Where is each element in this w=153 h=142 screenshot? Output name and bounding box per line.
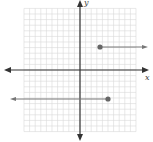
graph: x y <box>0 0 153 142</box>
x-axis-label: x <box>145 73 150 82</box>
lower-ray-arrow-icon <box>10 97 16 101</box>
y-axis-label: y <box>83 0 89 7</box>
upper-ray-arrow-icon <box>142 45 148 49</box>
lower-ray-endpoint <box>105 96 110 101</box>
y-axis-down-arrow-icon <box>77 134 83 141</box>
upper-ray-endpoint <box>97 44 102 49</box>
y-axis-up-arrow-icon <box>77 0 83 7</box>
x-axis-left-arrow-icon <box>4 67 11 73</box>
